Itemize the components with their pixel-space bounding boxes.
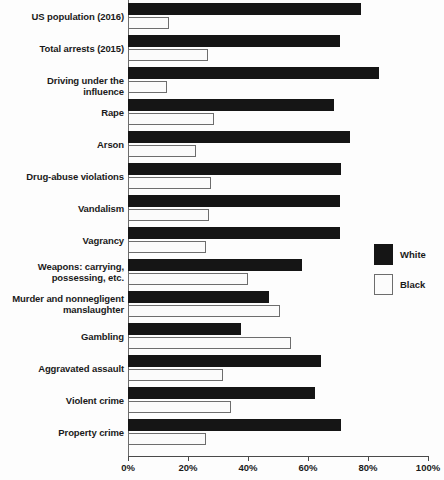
- x-tick-5: [428, 456, 429, 461]
- category-label-5: Drug-abuse violations: [4, 171, 124, 182]
- x-tick-label-4: 80%: [346, 462, 390, 473]
- category-label-8: Weapons: carrying,possessing, etc.: [4, 261, 124, 283]
- category-label-line: possessing, etc.: [4, 272, 124, 283]
- bar-black-13: [128, 433, 206, 445]
- bar-white-12: [128, 387, 315, 399]
- category-label-13: Property crime: [4, 427, 124, 438]
- category-label-line: Violent crime: [4, 395, 124, 406]
- bar-white-6: [128, 195, 340, 207]
- bar-black-3: [128, 113, 214, 125]
- category-label-line: Vagrancy: [4, 235, 124, 246]
- category-label-7: Vagrancy: [4, 235, 124, 246]
- category-label-line: Gambling: [4, 331, 124, 342]
- category-label-line: Driving under the influence: [4, 75, 124, 97]
- bar-black-6: [128, 209, 209, 221]
- x-tick-4: [368, 456, 369, 461]
- category-label-line: Aggravated assault: [4, 363, 124, 374]
- category-label-line: Arson: [4, 139, 124, 150]
- bar-white-13: [128, 419, 341, 431]
- x-tick-label-0: 0%: [106, 462, 150, 473]
- bar-white-5: [128, 163, 341, 175]
- bar-black-11: [128, 369, 223, 381]
- category-label-9: Murder and nonnegligentmanslaughter: [4, 293, 124, 315]
- x-axis-line: [128, 456, 428, 457]
- plot-area: [128, 0, 428, 456]
- category-label-line: Murder and nonnegligent: [4, 293, 124, 304]
- x-tick-1: [188, 456, 189, 461]
- category-label-4: Arson: [4, 139, 124, 150]
- bar-white-0: [128, 3, 361, 15]
- x-tick-3: [308, 456, 309, 461]
- x-tick-label-2: 40%: [226, 462, 270, 473]
- bar-black-7: [128, 241, 206, 253]
- bar-black-0: [128, 17, 169, 29]
- bar-white-2: [128, 67, 379, 79]
- category-label-line: US population (2016): [4, 11, 124, 22]
- category-label-line: Weapons: carrying,: [4, 261, 124, 272]
- bar-black-2: [128, 81, 167, 93]
- x-tick-label-5: 100%: [406, 462, 444, 473]
- bar-black-4: [128, 145, 196, 157]
- legend-label-white: White: [400, 249, 426, 260]
- bar-black-10: [128, 337, 291, 349]
- category-label-6: Vandalism: [4, 203, 124, 214]
- category-label-12: Violent crime: [4, 395, 124, 406]
- category-label-0: US population (2016): [4, 11, 124, 22]
- bar-white-4: [128, 131, 350, 143]
- bar-white-10: [128, 323, 241, 335]
- bar-white-1: [128, 35, 340, 47]
- bar-black-5: [128, 177, 211, 189]
- bar-black-9: [128, 305, 280, 317]
- category-label-line: Vandalism: [4, 203, 124, 214]
- bar-black-12: [128, 401, 231, 413]
- x-tick-0: [128, 456, 129, 461]
- category-label-line: manslaughter: [4, 304, 124, 315]
- bar-black-8: [128, 273, 248, 285]
- category-label-11: Aggravated assault: [4, 363, 124, 374]
- x-tick-2: [248, 456, 249, 461]
- bar-white-11: [128, 355, 321, 367]
- bar-white-9: [128, 291, 269, 303]
- category-label-10: Gambling: [4, 331, 124, 342]
- bar-white-3: [128, 99, 334, 111]
- legend-label-black: Black: [400, 279, 425, 290]
- legend-swatch-black: [374, 274, 393, 295]
- bar-black-1: [128, 49, 208, 61]
- category-label-3: Rape: [4, 107, 124, 118]
- bar-white-8: [128, 259, 302, 271]
- bar-white-7: [128, 227, 340, 239]
- category-label-line: Property crime: [4, 427, 124, 438]
- legend-swatch-white: [374, 244, 393, 265]
- category-label-2: Driving under the influence: [4, 75, 124, 97]
- category-label-1: Total arrests (2015): [4, 43, 124, 54]
- x-tick-label-1: 20%: [166, 462, 210, 473]
- x-tick-label-3: 60%: [286, 462, 330, 473]
- category-label-line: Rape: [4, 107, 124, 118]
- category-label-line: Drug-abuse violations: [4, 171, 124, 182]
- category-label-line: Total arrests (2015): [4, 43, 124, 54]
- bar-chart: US population (2016)Total arrests (2015)…: [0, 0, 444, 480]
